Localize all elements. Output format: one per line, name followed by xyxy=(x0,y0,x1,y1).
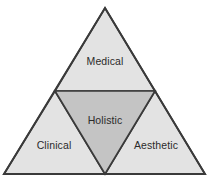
triangle-diagram: Medical Holistic Clinical Aesthetic xyxy=(0,0,210,183)
region-medical-shape xyxy=(55,8,155,91)
triangle-diagram-graphic xyxy=(0,0,210,183)
